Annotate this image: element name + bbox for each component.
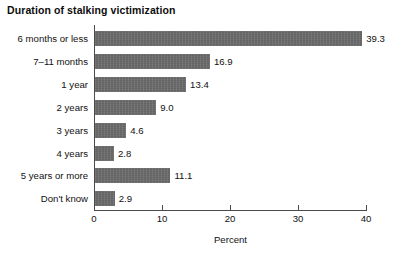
bar-value-label: 11.1: [174, 168, 192, 183]
bar: [95, 54, 210, 69]
bar: [95, 123, 126, 138]
bar-value-label: 9.0: [160, 100, 173, 115]
bar-value-label: 4.6: [130, 123, 143, 138]
bar-value-label: 13.4: [190, 77, 209, 92]
bar-value-label: 2.8: [118, 146, 131, 161]
x-axis-tick-label: 20: [210, 213, 250, 224]
x-axis-tick: [94, 205, 95, 210]
category-label: 3 years: [0, 123, 88, 138]
category-label: 1 year: [0, 77, 88, 92]
bar: [95, 146, 114, 161]
x-axis-tick-label: 30: [278, 213, 318, 224]
bar: [95, 191, 115, 206]
x-axis-tick-label: 40: [346, 213, 386, 224]
category-label: 5 years or more: [0, 168, 88, 183]
x-axis-title: Percent: [94, 234, 367, 245]
x-axis-tick: [366, 205, 367, 210]
x-axis-line: [94, 210, 367, 211]
x-axis-tick: [162, 205, 163, 210]
category-label: 7–11 months: [0, 54, 88, 69]
bar: [95, 77, 186, 92]
x-axis-tick: [298, 205, 299, 210]
bar-value-label: 39.3: [366, 31, 385, 46]
x-axis-tick: [230, 205, 231, 210]
bar-value-label: 16.9: [214, 54, 233, 69]
plot-area: 6 months or less39.37–11 months16.91 yea…: [0, 0, 395, 255]
x-axis-tick-label: 10: [142, 213, 182, 224]
category-label: 4 years: [0, 146, 88, 161]
x-axis-tick-label: 0: [74, 213, 114, 224]
category-label: Don't know: [0, 191, 88, 206]
bar: [95, 100, 156, 115]
y-axis-line: [94, 25, 95, 211]
bar-chart: Duration of stalking victimization 6 mon…: [0, 0, 395, 255]
bar: [95, 31, 362, 46]
category-label: 6 months or less: [0, 31, 88, 46]
bar: [95, 168, 170, 183]
category-label: 2 years: [0, 100, 88, 115]
bar-value-label: 2.9: [119, 191, 132, 206]
